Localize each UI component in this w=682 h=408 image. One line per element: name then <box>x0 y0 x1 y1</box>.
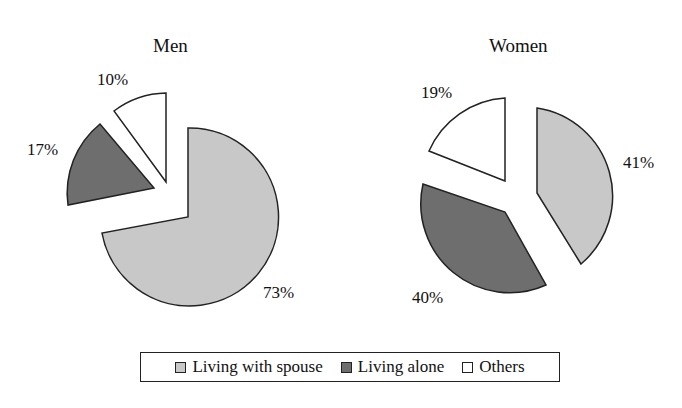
legend-swatch-light-gray <box>175 362 186 373</box>
legend-label: Others <box>479 357 524 377</box>
legend-swatch-dark-gray <box>341 362 352 373</box>
women-slice-others <box>429 98 505 181</box>
men-label-living-alone: 17% <box>27 140 58 160</box>
women-slice-living-with-spouse <box>537 108 613 264</box>
men-slice-living-with-spouse <box>102 128 279 306</box>
women-label-others: 19% <box>421 83 452 103</box>
women-label-living-with-spouse: 41% <box>623 153 654 173</box>
men-label-living-with-spouse: 73% <box>263 283 294 303</box>
legend-swatch-white <box>462 362 473 373</box>
women-slice-living-alone <box>421 184 546 293</box>
chart-legend: Living with spouse Living alone Others <box>140 352 560 382</box>
pie-charts <box>0 0 682 408</box>
women-label-living-alone: 40% <box>412 288 443 308</box>
legend-label: Living with spouse <box>192 357 322 377</box>
legend-item-others: Others <box>462 357 524 377</box>
legend-item-living-with-spouse: Living with spouse <box>175 357 322 377</box>
men-label-others: 10% <box>97 70 128 90</box>
legend-label: Living alone <box>358 357 444 377</box>
legend-item-living-alone: Living alone <box>341 357 444 377</box>
